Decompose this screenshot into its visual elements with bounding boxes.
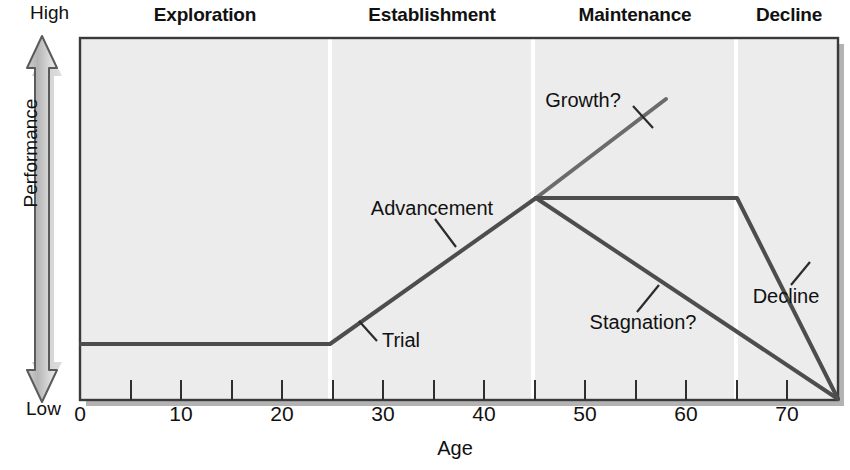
x-tick-label-40: 40 <box>472 402 495 426</box>
x-tick-label-50: 50 <box>573 402 596 426</box>
annotation-stagnation: Stagnation? <box>590 311 697 334</box>
x-tick-label-70: 70 <box>775 402 798 426</box>
x-axis-title: Age <box>437 437 473 460</box>
annotation-trial: Trial <box>382 329 420 352</box>
chart-canvas <box>0 0 850 470</box>
annotation-advancement: Advancement <box>371 197 493 220</box>
x-tick-label-30: 30 <box>371 402 394 426</box>
x-tick-label-0: 0 <box>74 402 86 426</box>
y-axis-high-label: High <box>30 2 69 24</box>
career-stage-chart: Exploration Establishment Maintenance De… <box>0 0 850 470</box>
y-axis-title: Performance <box>20 78 42 228</box>
x-tick-label-20: 20 <box>270 402 293 426</box>
x-tick-label-60: 60 <box>674 402 697 426</box>
annotation-growth: Growth? <box>545 89 621 112</box>
x-tick-label-10: 10 <box>169 402 192 426</box>
y-axis-low-label: Low <box>26 398 61 420</box>
annotation-decline: Decline <box>753 285 820 308</box>
